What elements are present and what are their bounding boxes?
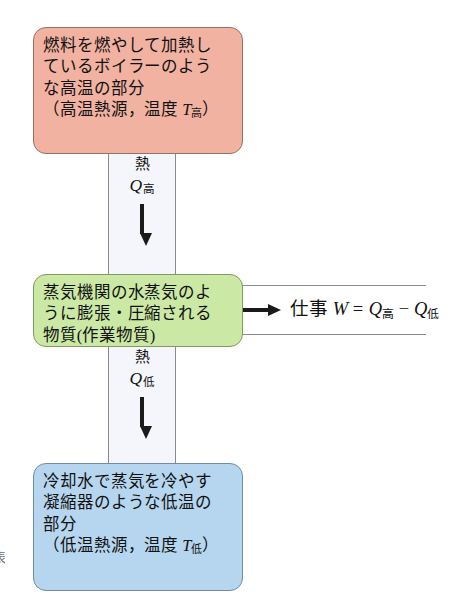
work-term2-subscript: 低 — [427, 306, 439, 320]
arrow-right-work-icon — [243, 304, 281, 316]
arrow-head — [268, 304, 281, 316]
arrow-head — [140, 426, 152, 439]
working-substance-line-2: うに膨張・圧縮される — [43, 303, 234, 324]
heat-output-symbol-subscript: 低 — [143, 376, 155, 388]
hot-reservoir-temp-subscript: 高 — [191, 107, 202, 119]
hot-reservoir-paren-open: （高温熱源，温度 — [43, 100, 182, 119]
heat-output-symbol-letter: Q — [129, 368, 142, 388]
hot-reservoir-temp-symbol: T — [182, 100, 191, 119]
arrow-down-heat-output-icon — [140, 397, 145, 439]
arrow-shaft — [243, 308, 269, 311]
arrow-shaft — [140, 397, 143, 427]
margin-caption-text: 表 — [0, 551, 5, 591]
work-label: 仕事 — [290, 299, 328, 319]
work-term1-subscript: 高 — [382, 306, 394, 320]
working-substance-box: 蒸気機関の水蒸気のよ うに膨張・圧縮される 物質(作業物質) — [33, 274, 243, 347]
heat-input-channel-content: 熱 Q高 — [109, 152, 175, 277]
working-substance-line-3: 物質(作業物質) — [43, 325, 234, 346]
heat-input-label: 熱 — [135, 157, 150, 173]
heat-engine-diagram: 熱 Q高 熱 Q低 燃料を燃やして加熱し ているボイラーのよう な高温の部分 （… — [0, 0, 470, 603]
cold-reservoir-temperature-line: （低温熱源，温度 T低） — [43, 535, 234, 556]
cold-reservoir-paren-close: ） — [202, 536, 219, 555]
hot-reservoir-line-2: ているボイラーのよう — [43, 56, 234, 77]
work-symbol: W — [333, 299, 348, 319]
heat-output-channel: 熱 Q低 — [108, 345, 176, 465]
work-equation: 仕事 W = Q高 − Q低 — [290, 300, 439, 320]
cold-reservoir-temp-subscript: 低 — [191, 543, 202, 555]
cold-reservoir-temp-symbol: T — [182, 536, 191, 555]
work-minus: − — [399, 299, 409, 319]
cold-reservoir-line-3: 部分 — [43, 514, 234, 535]
hot-reservoir-paren-close: ） — [202, 100, 219, 119]
work-output-row: 仕事 W = Q高 − Q低 — [243, 285, 439, 335]
heat-output-label: 熱 — [135, 350, 150, 366]
work-equals: = — [353, 299, 365, 319]
hot-reservoir-line-1: 燃料を燃やして加熱し — [43, 35, 234, 56]
cold-reservoir-paren-open: （低温熱源，温度 — [43, 536, 182, 555]
heat-output-channel-content: 熱 Q低 — [109, 345, 175, 465]
work-term2-symbol: Q — [414, 299, 427, 319]
heat-output-symbol: Q低 — [129, 369, 154, 389]
heat-input-channel: 熱 Q高 — [108, 152, 176, 277]
arrow-shaft — [140, 204, 143, 234]
hot-reservoir-box: 燃料を燃やして加熱し ているボイラーのよう な高温の部分 （高温熱源，温度 T高… — [33, 27, 243, 154]
heat-input-symbol: Q高 — [129, 176, 154, 196]
cold-reservoir-box: 冷却水で蒸気を冷やす 凝縮器のような低温の 部分 （低温熱源，温度 T低） — [33, 463, 243, 591]
hot-reservoir-temperature-line: （高温熱源，温度 T高） — [43, 99, 234, 120]
arrow-head — [140, 233, 152, 246]
arrow-down-heat-input-icon — [140, 204, 145, 246]
cold-reservoir-line-2: 凝縮器のような低温の — [43, 492, 234, 513]
working-substance-line-1: 蒸気機関の水蒸気のよ — [43, 282, 234, 303]
work-term1-symbol: Q — [369, 299, 382, 319]
hot-reservoir-line-3: な高温の部分 — [43, 78, 234, 99]
heat-input-symbol-letter: Q — [129, 175, 142, 195]
cold-reservoir-line-1: 冷却水で蒸気を冷やす — [43, 471, 234, 492]
heat-input-symbol-subscript: 高 — [143, 183, 155, 195]
